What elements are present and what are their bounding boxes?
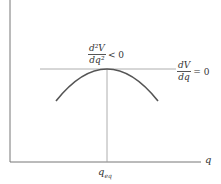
first-derivative-label: dV dq = 0 <box>177 61 209 82</box>
diagram-canvas <box>0 0 221 184</box>
second-derivative-numerator: d²V <box>88 44 106 55</box>
second-derivative-label: d²V dq² < 0 <box>88 44 124 65</box>
first-derivative-numerator: dV <box>177 61 191 72</box>
x-axis-label: q <box>205 155 211 165</box>
second-derivative-denominator: dq² <box>88 55 105 65</box>
first-derivative-relation: = 0 <box>193 67 209 77</box>
equilibrium-tick-subscript: eq <box>104 172 111 179</box>
equilibrium-tick-label: qeq <box>98 167 112 179</box>
second-derivative-relation: < 0 <box>108 50 124 60</box>
first-derivative-denominator: dq <box>177 72 191 82</box>
